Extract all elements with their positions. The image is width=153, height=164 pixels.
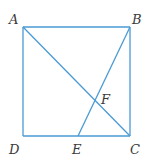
label-d: D (8, 142, 20, 157)
label-f: F (100, 92, 111, 107)
label-c: C (130, 142, 140, 157)
square-diagram: A B C D E F (0, 0, 153, 164)
label-b: B (131, 12, 142, 27)
segment-ac (23, 27, 130, 136)
label-a: A (8, 12, 18, 27)
label-e: E (71, 142, 82, 157)
segment-be (78, 27, 130, 136)
